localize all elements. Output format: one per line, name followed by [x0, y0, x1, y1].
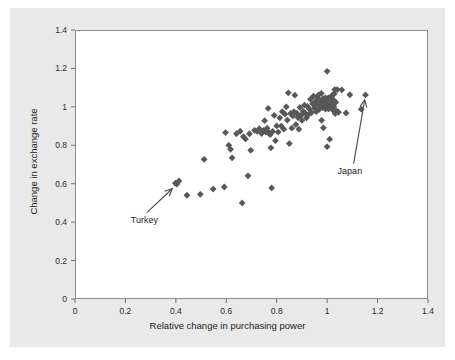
x-tick-label: 0.8 — [271, 307, 283, 316]
x-tick-label: 0.6 — [220, 307, 232, 316]
annotation-label-turkey: Turkey — [131, 215, 158, 225]
annotation-label-japan: Japan — [338, 166, 363, 176]
annotation-arrows — [147, 100, 367, 213]
y-tick-label: 0.8 — [41, 141, 67, 150]
tick-marks — [71, 30, 428, 303]
x-tick-label: 1 — [325, 307, 330, 316]
y-tick-label: 1 — [41, 103, 67, 112]
x-tick-label: 0 — [73, 307, 78, 316]
data-points — [172, 68, 369, 206]
y-tick-label: 1.2 — [41, 64, 67, 73]
figure-panel: 00.20.40.60.811.21.400.20.40.60.811.21.4… — [10, 8, 445, 347]
y-tick-label: 0.6 — [41, 179, 67, 188]
y-tick-label: 0.2 — [41, 256, 67, 265]
chart-canvas — [10, 8, 445, 347]
x-tick-label: 0.4 — [170, 307, 182, 316]
y-tick-label: 1.4 — [41, 26, 67, 35]
y-axis-title: Change in exchange rate — [28, 87, 39, 237]
x-axis-title: Relative change in purchasing power — [10, 320, 445, 331]
y-tick-label: 0 — [41, 295, 67, 304]
x-tick-label: 1.2 — [372, 307, 384, 316]
x-tick-label: 0.2 — [120, 307, 132, 316]
y-tick-label: 0.4 — [41, 218, 67, 227]
x-tick-label: 1.4 — [422, 307, 434, 316]
